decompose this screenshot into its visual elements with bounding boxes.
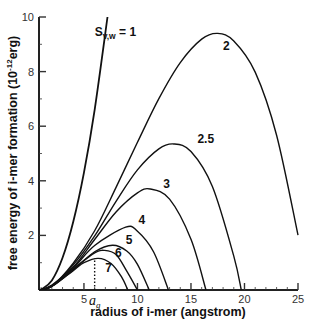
x-axis-title: radius of i-mer (angstrom) bbox=[90, 305, 246, 319]
x-tick-label: 20 bbox=[238, 293, 250, 305]
y-tick-label: 10 bbox=[22, 11, 34, 23]
y-axis-title-unit-exp: -12 bbox=[5, 59, 14, 71]
y-axis-title-unit-base: 10 bbox=[6, 71, 20, 85]
y-tick-label: 8 bbox=[28, 66, 34, 78]
label-s-3: 3 bbox=[163, 177, 170, 191]
label-s-2-5: 2.5 bbox=[197, 132, 214, 146]
label-rest: = 1 bbox=[116, 25, 137, 39]
y-tick-label: 2 bbox=[28, 229, 34, 241]
x-tick-label: 10 bbox=[131, 293, 143, 305]
x-tick-label: 5 bbox=[81, 293, 87, 305]
y-axis-title-main: free energy of i-mer formation ( bbox=[6, 84, 20, 270]
label-s-6: 6 bbox=[115, 246, 122, 260]
label-s-5: 5 bbox=[126, 233, 133, 247]
y-axis-title-unit-rest: erg) bbox=[6, 36, 20, 60]
x-tick-label: 25 bbox=[292, 293, 304, 305]
axes: 510152025246810 bbox=[22, 11, 304, 305]
y-tick-label: 4 bbox=[28, 175, 34, 187]
y-axis-title: free energy of i-mer formation (10-12erg… bbox=[5, 36, 20, 271]
label-s-1: Sv,w = 1 bbox=[95, 25, 137, 41]
label-s-2: 2 bbox=[223, 39, 230, 53]
curve-labels: Sv,w = 122.534567 bbox=[95, 25, 230, 275]
chart: 510152025246810 ag Sv,w = 122.534567 rad… bbox=[0, 0, 311, 326]
x-tick-label: 15 bbox=[185, 293, 197, 305]
label-s-7: 7 bbox=[105, 261, 112, 275]
label-sub: v,w bbox=[103, 31, 116, 41]
label-base: S bbox=[95, 25, 103, 39]
label-s-4: 4 bbox=[139, 213, 146, 227]
curves: ag bbox=[39, 17, 298, 310]
y-tick-label: 6 bbox=[28, 120, 34, 132]
curve-s-2 bbox=[39, 33, 298, 290]
